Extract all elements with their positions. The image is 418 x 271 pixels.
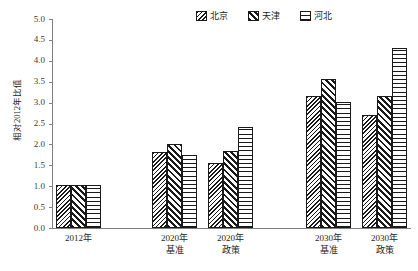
y-axis-tick-label: 1.0	[15, 182, 45, 191]
bar-group	[362, 19, 407, 228]
y-axis-tick-label: 2.5	[15, 119, 45, 128]
x-axis-tick-label: 2030年政策	[355, 232, 415, 256]
y-axis-tick-label: 4.5	[15, 35, 45, 44]
x-axis-tick-label: 2030年基准	[299, 232, 359, 256]
bar	[392, 48, 407, 228]
y-axis-tick-label: 0.5	[15, 203, 45, 212]
y-axis-tick-label: 4.0	[15, 56, 45, 65]
bar-group	[208, 19, 253, 228]
y-axis-tick-label: 2.0	[15, 140, 45, 149]
bar	[208, 163, 223, 228]
x-axis-tick-labels: 2012年2020年基准2020年政策2030年基准2030年政策	[0, 232, 418, 271]
bar	[223, 151, 238, 228]
y-axis-tick-labels: 5.04.54.03.53.02.52.01.51.00.50.0	[0, 0, 52, 271]
x-axis-tick-label: 2020年政策	[201, 232, 261, 256]
x-axis-tick-label: 2012年	[49, 232, 109, 244]
y-axis-tick-label: 1.5	[15, 161, 45, 170]
bar-group	[306, 19, 351, 228]
y-axis-tick-label: 3.0	[15, 98, 45, 107]
bar	[362, 115, 377, 228]
bar	[336, 102, 351, 228]
x-axis-line	[52, 228, 411, 229]
plot-area	[52, 19, 410, 228]
bar-group	[56, 19, 101, 228]
bar	[56, 185, 71, 228]
bar	[86, 185, 101, 228]
bar	[321, 79, 336, 228]
bar-group	[152, 19, 197, 228]
bar	[152, 152, 167, 228]
bar	[238, 127, 253, 228]
bar	[182, 155, 197, 228]
y-axis-tick-label: 5.0	[15, 15, 45, 24]
bar	[377, 96, 392, 228]
x-axis-tick-label: 2020年基准	[145, 232, 205, 256]
bar	[306, 96, 321, 228]
bar	[167, 144, 182, 228]
bar-chart: 北京 天津 河北 相对2012年比值 5.04.54.03.53.02.52.0…	[0, 0, 418, 271]
y-axis-tick-label: 3.5	[15, 77, 45, 86]
bar	[71, 185, 86, 228]
